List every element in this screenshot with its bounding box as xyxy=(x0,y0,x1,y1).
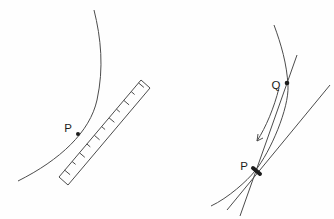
ruler-tick xyxy=(65,170,70,175)
ruler-tick xyxy=(72,162,76,165)
ruler-tick xyxy=(131,92,134,95)
ruler-tick xyxy=(80,153,85,158)
ruler-tick xyxy=(109,118,114,123)
ruler-tick xyxy=(102,127,106,130)
right-point-p-dot xyxy=(253,168,260,174)
ruler-tick xyxy=(124,100,129,105)
left-point-p-label: P xyxy=(64,122,72,134)
point-q-dot xyxy=(285,81,290,86)
ruler xyxy=(59,80,150,185)
ruler-tick xyxy=(87,144,90,147)
ruler-tangent-figure: P xyxy=(18,10,150,185)
ruler-tick xyxy=(139,83,144,88)
diagram-canvas: P Q P xyxy=(0,0,334,219)
secant-tangent-figure: Q P xyxy=(211,25,330,216)
diagram-page: P Q P xyxy=(0,0,334,219)
left-point-p-dot xyxy=(76,132,80,136)
ruler-tick xyxy=(94,135,99,140)
tangent-line xyxy=(227,85,330,210)
right-point-p-label: P xyxy=(240,160,248,172)
ruler-tick xyxy=(116,109,119,112)
ruler-ticks xyxy=(65,83,144,175)
left-curve xyxy=(18,10,101,181)
point-q-label: Q xyxy=(272,79,281,91)
right-curve xyxy=(211,25,288,206)
